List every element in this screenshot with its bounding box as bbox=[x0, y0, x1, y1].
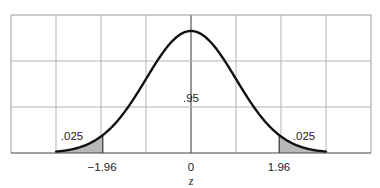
tick-label-1-96: 1.96 bbox=[268, 161, 290, 173]
right-tail-area-label: .025 bbox=[293, 130, 315, 142]
left-tail-area-label: .025 bbox=[61, 130, 83, 142]
center-area-label: .95 bbox=[183, 92, 199, 104]
x-axis-title: z bbox=[188, 174, 194, 188]
normal-distribution-chart: .025 .95 .025 −1.96 0 1.96 z bbox=[0, 0, 380, 188]
tick-label-neg-1-96: −1.96 bbox=[87, 161, 116, 173]
tick-label-zero: 0 bbox=[188, 161, 194, 173]
